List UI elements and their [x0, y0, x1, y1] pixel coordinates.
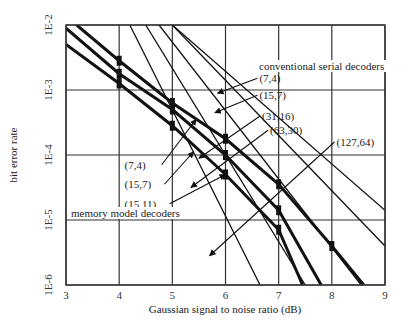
memory-decoders-label: memory model decoders	[71, 207, 180, 219]
ber-chart: (7,4)(15,7)(31,16)(63,30)(127,64)(7,4)(1…	[0, 0, 409, 329]
y-tick-label: 1E-4	[42, 144, 54, 166]
annotation-label: (63,30)	[270, 124, 302, 137]
data-marker	[170, 121, 175, 131]
data-marker	[170, 98, 175, 108]
annotations: (7,4)(15,7)(31,16)(63,30)(127,64)(7,4)(1…	[124, 72, 374, 255]
x-tick-label: 6	[223, 289, 229, 301]
y-axis-label: bit error rate	[7, 127, 19, 182]
annotation-arrow	[215, 95, 258, 113]
annotation-label: (15,7)	[259, 89, 286, 102]
data-marker	[117, 79, 122, 89]
data-marker	[276, 179, 281, 189]
conventional-decoders-label: conventional serial decoders	[259, 60, 384, 72]
data-marker	[276, 205, 281, 215]
y-tick-label: 1E-6	[42, 274, 54, 296]
x-tick-label: 9	[382, 289, 388, 301]
annotation-label: (127,64)	[336, 136, 374, 149]
data-marker	[117, 56, 122, 66]
annotation-label: (15,7)	[124, 178, 151, 191]
data-marker	[276, 225, 281, 235]
y-tick-label: 1E-2	[42, 14, 54, 35]
annotation-label: (7,4)	[124, 159, 145, 172]
x-tick-label: 7	[276, 289, 282, 301]
y-tick-label: 1E-5	[42, 209, 54, 231]
x-axis-label: Gaussian signal to noise ratio (dB)	[149, 303, 302, 316]
data-marker	[329, 241, 334, 251]
annotation-arrow	[164, 152, 193, 185]
y-tick-label: 1E-3	[42, 79, 54, 101]
annotation-arrow	[199, 116, 260, 158]
data-marker	[117, 69, 122, 79]
annotation-label: (31,16)	[262, 110, 294, 123]
x-tick-label: 8	[329, 289, 335, 301]
x-tick-label: 5	[170, 289, 176, 301]
annotation-arrow	[218, 78, 258, 93]
axes: 34567891E-21E-31E-41E-51E-6	[42, 14, 388, 301]
annotation-label: (7,4)	[259, 72, 280, 85]
data-marker	[223, 150, 228, 160]
x-tick-label: 4	[116, 289, 122, 301]
x-tick-label: 3	[63, 289, 69, 301]
